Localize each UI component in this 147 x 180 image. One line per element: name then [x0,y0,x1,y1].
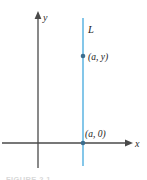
figure-caption: FIGURE 2.1 [6,175,51,180]
y-axis-label: y [42,12,48,23]
point-a-y-label: (a, y) [88,52,108,63]
point-a-0-label: (a, 0) [85,129,106,140]
point-a-0-marker [81,141,86,146]
x-axis-label: x [134,138,140,149]
figure-container: y x L (a, y) (a, 0) FIGURE 2.1 [0,0,147,180]
y-axis-arrowhead [35,11,42,19]
coordinate-plane-diagram: y x L (a, y) (a, 0) [0,0,147,180]
line-L-label: L [87,24,94,35]
x-axis-arrowhead [125,140,133,147]
point-a-y-marker [81,54,86,59]
